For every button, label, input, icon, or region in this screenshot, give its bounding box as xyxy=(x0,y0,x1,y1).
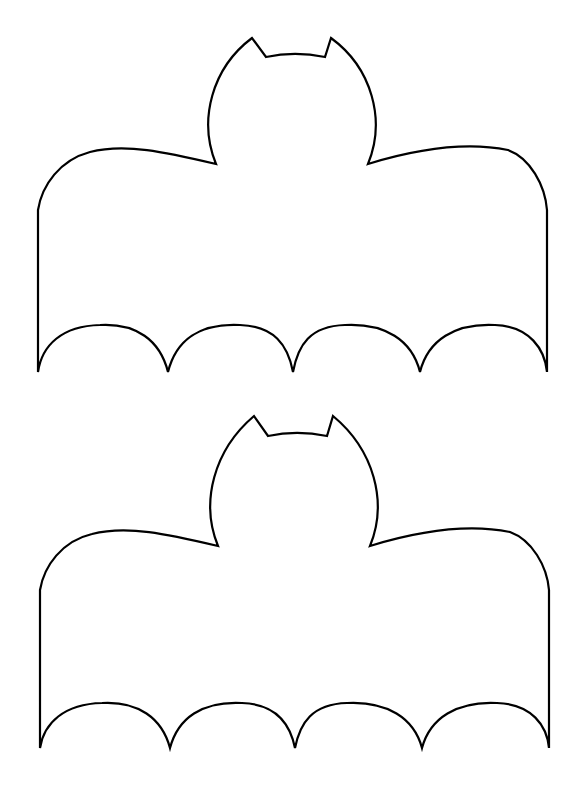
bat-outline-top xyxy=(0,0,581,390)
bat-outline-bottom xyxy=(0,376,581,766)
bat-shape-icon xyxy=(0,376,581,766)
bat-shape-icon xyxy=(0,0,581,390)
